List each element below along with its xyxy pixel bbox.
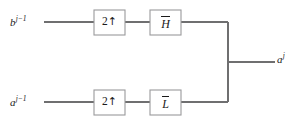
filter-lowpass-label: L [150, 96, 181, 110]
input-label-b-superscript: j−1 [16, 14, 27, 23]
output-label-a-superscript: j [283, 51, 285, 60]
filter-lowpass-symbol: L [162, 96, 169, 110]
output-label-a: aj [277, 52, 285, 65]
filter-bank-diagram: bj−1 aj−1 aj 2↑ H 2↑ L [0, 0, 300, 127]
upsampler-bottom-label: 2↑ [94, 96, 125, 108]
up-arrow-icon: ↑ [108, 15, 117, 28]
upsampler-top-label: 2↑ [94, 16, 125, 28]
up-arrow-icon: ↑ [108, 95, 117, 108]
filter-highpass-symbol: H [161, 16, 170, 30]
filter-highpass-label: H [150, 16, 181, 30]
input-label-b: bj−1 [10, 15, 27, 28]
input-label-a-superscript: j−1 [16, 94, 27, 103]
input-label-a: aj−1 [10, 95, 27, 108]
